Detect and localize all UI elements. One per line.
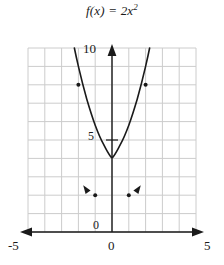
plot-area xyxy=(0,0,224,265)
y-axis-label-10: 10 xyxy=(83,41,96,57)
function-graph-figure: f(x) = 2x2 xyxy=(0,0,224,265)
point-marker xyxy=(93,193,97,197)
y-axis xyxy=(106,44,118,232)
point-marker xyxy=(144,83,148,87)
x-axis-label-min: -5 xyxy=(8,238,19,254)
y-axis-arrowhead xyxy=(108,44,117,56)
curve-arrow-left xyxy=(83,185,90,194)
x-axis-label-max: 5 xyxy=(204,238,211,254)
point-marker xyxy=(76,83,80,87)
y-axis-label-5: 5 xyxy=(88,129,94,144)
parabola-curve xyxy=(74,48,169,163)
point-marker xyxy=(127,193,131,197)
x-axis-label-zero: 0 xyxy=(108,238,115,254)
origin-label-on-axis: 0 xyxy=(93,218,99,233)
x-axis-arrowhead-left xyxy=(20,227,32,236)
x-axis-arrowhead-right xyxy=(192,227,204,236)
curve-arrow-right xyxy=(133,185,140,194)
